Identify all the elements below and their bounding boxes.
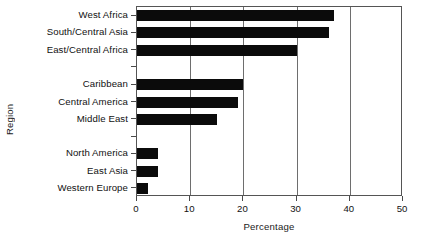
y-tick-mark: [131, 66, 136, 67]
y-axis-tick-labels: West AfricaSouth/Central AsiaEast/Centra…: [18, 6, 132, 196]
bar-south-central-asia: [137, 27, 329, 38]
y-axis-label-western-europe: Western Europe: [57, 181, 128, 194]
bar-western-europe: [137, 183, 148, 194]
y-tick-mark: [131, 49, 136, 50]
gridline-40: [350, 7, 351, 195]
y-tick-mark: [131, 170, 136, 171]
y-tick-mark: [131, 84, 136, 85]
y-tick-mark: [131, 15, 136, 16]
bar-central-america: [137, 97, 238, 108]
bar-middle-east: [137, 114, 217, 125]
plot-area: [136, 6, 402, 196]
x-tick-mark: [349, 196, 350, 201]
bar-north-america: [137, 148, 158, 159]
bar-east-central-africa: [137, 45, 297, 56]
y-axis-label-west-africa: West Africa: [79, 8, 128, 21]
x-tick-label-50: 50: [387, 203, 417, 214]
bar-east-asia: [137, 166, 158, 177]
x-tick-mark: [402, 196, 403, 201]
x-tick-label-10: 10: [174, 203, 204, 214]
y-tick-mark: [131, 32, 136, 33]
x-tick-mark: [296, 196, 297, 201]
y-axis-label-north-america: North America: [66, 146, 128, 159]
y-axis-label-middle-east: Middle East: [77, 112, 128, 125]
y-axis-label-central-america: Central America: [58, 95, 128, 108]
y-axis-label-east-asia: East Asia: [87, 164, 128, 177]
y-axis-title: Region: [4, 84, 18, 154]
y-tick-mark: [131, 136, 136, 137]
y-axis-label-east-central-africa: East/Central Africa: [47, 43, 128, 56]
bar-chart: Region West AfricaSouth/Central AsiaEast…: [0, 0, 428, 243]
y-tick-mark: [131, 118, 136, 119]
y-tick-mark: [131, 153, 136, 154]
bar-west-africa: [137, 10, 334, 21]
x-tick-mark: [242, 196, 243, 201]
x-tick-mark: [189, 196, 190, 201]
x-axis-title: Percentage: [136, 221, 402, 232]
x-tick-mark: [136, 196, 137, 201]
y-tick-mark: [131, 187, 136, 188]
bar-caribbean: [137, 79, 243, 90]
x-tick-label-40: 40: [334, 203, 364, 214]
x-tick-label-20: 20: [227, 203, 257, 214]
y-axis-label-caribbean: Caribbean: [83, 77, 128, 90]
x-tick-label-30: 30: [281, 203, 311, 214]
y-axis-label-south-central-asia: South/Central Asia: [47, 25, 128, 38]
y-tick-mark: [131, 101, 136, 102]
x-tick-label-0: 0: [121, 203, 151, 214]
